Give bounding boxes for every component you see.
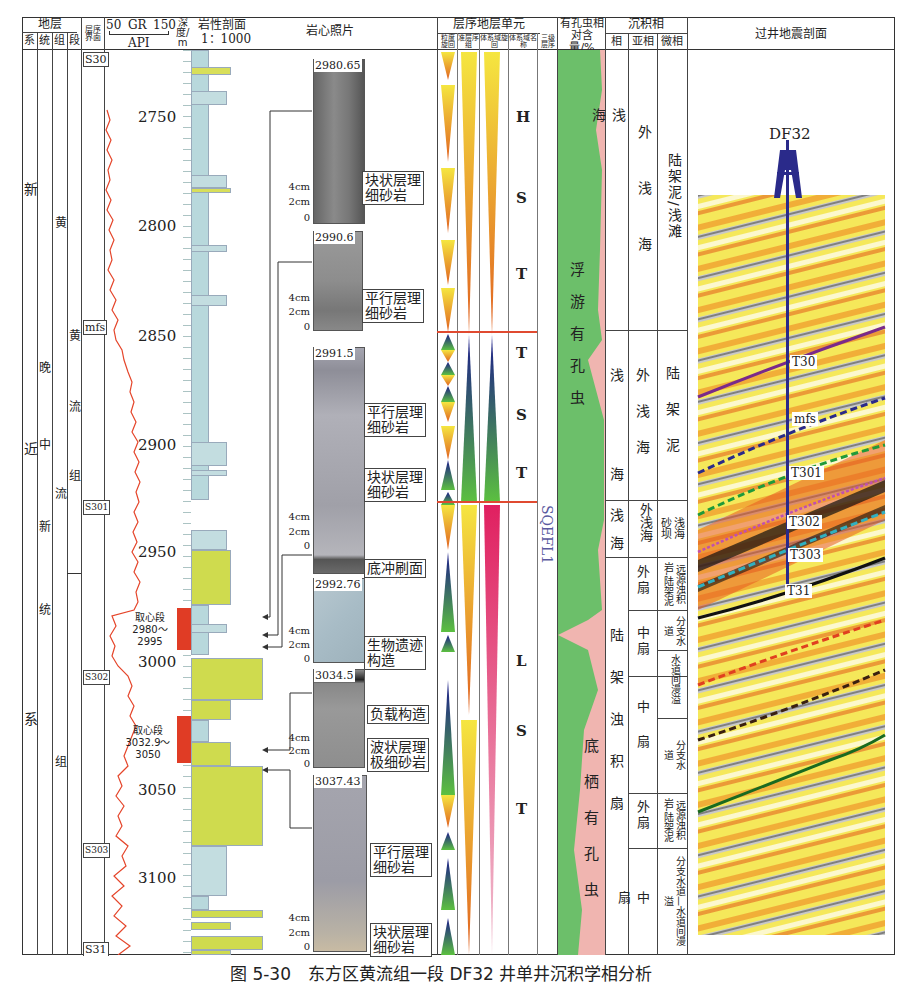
depth-3000: 3000 [138, 653, 176, 671]
header-seismic: 过井地震剖面 [687, 28, 895, 41]
sandstone-layer [191, 700, 231, 720]
core-note: 块状层理 细砂岩 [362, 171, 424, 205]
core-note-line: 构造 [367, 653, 423, 668]
microfacies-cell: 分支水道 [659, 740, 685, 770]
foram-char: 虫 [570, 382, 586, 414]
lithology-column [191, 50, 271, 955]
header-subfacies: 亚相 [628, 36, 657, 48]
core-note-line: 细砂岩 [373, 940, 429, 955]
core-note: 块状层理 细砂岩 [370, 923, 432, 957]
header-microfacies: 微相 [657, 36, 687, 48]
header-series: 统 [37, 35, 52, 47]
series-char-3: 新 [39, 517, 51, 534]
depth-3050: 3050 [138, 781, 176, 799]
depth-2850: 2850 [138, 327, 176, 345]
core-photo-depth: 2980.65 [314, 59, 362, 72]
core-note-line: 细砂岩 [365, 306, 421, 321]
mudstone-layer [191, 896, 209, 910]
member-char-1: 黄 [69, 326, 81, 343]
header-facies: 沉积相 [605, 18, 687, 31]
subfacies-cell: 外浅海 [634, 503, 652, 542]
silt-layer [191, 245, 227, 252]
scale-4cm: 4cm [282, 625, 310, 636]
core-interval-2-bar [177, 716, 191, 763]
core-interval-1-range: 2980～2995 [120, 624, 180, 648]
microfacies-text: 分支水道 [662, 616, 685, 646]
planktonic-foram-label: 浮 游 有 孔 虫 [570, 254, 586, 414]
series-char-1: 晚 [39, 358, 51, 375]
core-note-line: 块状层理 [367, 470, 423, 485]
header-foram: 有孔虫相对含量/% [559, 18, 605, 54]
col-line [67, 32, 68, 955]
figure-caption: 图 5-30 东方区黄流组一段 DF32 井单井沉积学相分析 [230, 960, 652, 985]
core-photo-depth: 2990.6 [314, 231, 355, 244]
core-note: 平行层理 细砂岩 [362, 289, 424, 323]
strata-sub-divider [22, 32, 77, 33]
core-note: 底冲刷面 [364, 559, 426, 578]
foram-char: 栖 [584, 764, 600, 800]
core-note: 块状层理 细砂岩 [364, 468, 426, 502]
facies-sub-divider [605, 33, 687, 34]
core-note-line: 平行层理 [365, 291, 421, 306]
silt-layer [191, 846, 227, 896]
scale-4cm: 4cm [282, 181, 310, 192]
facies-text: 浅海 [588, 80, 628, 330]
microfacies-text: 陆架泥/浅滩 [666, 153, 682, 240]
scale-0: 0 [282, 941, 310, 952]
microfacies-text: 远源浊积岩-陆架泥 [662, 798, 685, 842]
member-boundary [67, 573, 81, 574]
facies-row-divider [628, 793, 687, 794]
core-photo-depth: 2992.76 [314, 578, 362, 591]
gr-scale-bar [109, 31, 169, 35]
system-char-2: 近 [24, 438, 38, 458]
facies-text: 浅海 [608, 508, 624, 564]
microfacies-cell: 陆架泥/浅滩 [662, 153, 684, 240]
formation-char-2: 流 [55, 484, 67, 501]
core-photo-depth: 3034.5 [314, 669, 355, 682]
depth-2950: 2950 [138, 543, 176, 561]
subfacies-cell: 中扇 [634, 626, 652, 658]
core-note-line: 细砂岩 [367, 485, 423, 500]
header-st-cycle: 体系域旋回 [480, 35, 508, 49]
col-line [52, 32, 53, 955]
facies-row-divider [605, 330, 687, 331]
scale-4cm: 4cm [282, 732, 310, 743]
gr-log-curve [104, 50, 184, 955]
horizon-t30-label: T30 [790, 355, 817, 369]
foram-char: 孔 [584, 836, 600, 872]
gr-unit: API [128, 36, 149, 50]
scale-0: 0 [282, 212, 310, 223]
header-litho: 岩性剖面 [192, 19, 252, 32]
subfacies-text: 外扇 [635, 800, 650, 832]
col-line [537, 33, 538, 955]
core-photo-2: 2990.6 [313, 231, 363, 331]
series-char-4: 统 [39, 600, 51, 617]
foram-char: 游 [570, 286, 586, 318]
silt-layer [191, 624, 227, 633]
header-facies-main: 相 [605, 36, 628, 48]
scale-2cm: 2cm [282, 639, 310, 650]
subfacies-text: 中扇 [616, 891, 650, 950]
core-note: 波状层理 极细砂岩 [367, 738, 429, 772]
core-photo-3: 2991.5 [313, 347, 365, 574]
core-note-line: 平行层理 [367, 405, 423, 420]
siltstone-layer [191, 67, 231, 75]
col-line [81, 17, 82, 955]
core-interval-1-label: 取心段 2980～2995 [120, 612, 180, 648]
microfacies-text: 水道间漫溢 [669, 654, 680, 704]
foram-char: 虫 [584, 872, 600, 908]
gr-header: 50 GR 150 API [106, 17, 176, 49]
horizon-t301-label: T301 [789, 466, 824, 480]
facies-cell: 浅海 [608, 508, 626, 564]
formation-char-3: 组 [55, 752, 67, 769]
horizon-t302-label: T302 [787, 515, 822, 529]
foram-char: 有 [570, 318, 586, 350]
microfacies-text: 陆架泥 [664, 366, 680, 474]
core-note-line: 细砂岩 [365, 188, 421, 203]
core-note: 生物遗迹 构造 [364, 636, 426, 670]
depth-2800: 2800 [138, 217, 176, 235]
mudstone-layer [191, 50, 209, 500]
microfacies-cell: 水道间漫溢 [664, 654, 680, 704]
member-char-3: 组 [69, 466, 81, 483]
scale-0: 0 [282, 758, 310, 769]
